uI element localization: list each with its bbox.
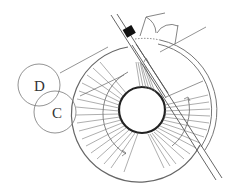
leader-lines — [60, 27, 206, 97]
stair-treads-right — [148, 95, 210, 168]
label-c: C — [52, 105, 62, 121]
central-column — [119, 87, 165, 133]
door-swings — [140, 13, 178, 44]
staircase-plan-drawing: D C — [0, 0, 231, 190]
direction-arrows — [122, 58, 190, 156]
label-d: D — [34, 78, 45, 94]
top-dashed-arc — [135, 38, 160, 40]
